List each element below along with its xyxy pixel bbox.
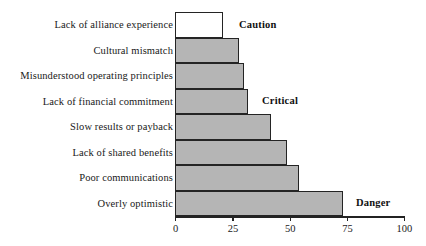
- x-tick-mark-0: [175, 216, 176, 221]
- category-label-4: Slow results or payback: [70, 122, 173, 133]
- bar-4: [175, 114, 271, 140]
- annotation-danger: Danger: [356, 197, 390, 208]
- x-tick-label-50: 50: [270, 223, 310, 234]
- category-label-3: Lack of financial commitment: [43, 97, 173, 108]
- category-label-0: Lack of alliance experience: [55, 20, 173, 31]
- x-tick-label-100: 100: [384, 223, 424, 234]
- category-label-2: Misunderstood operating principles: [20, 71, 173, 82]
- category-label-5: Lack of shared benefits: [72, 148, 173, 159]
- category-label-6: Poor communications: [79, 173, 173, 184]
- x-tick-mark-25: [232, 216, 233, 221]
- category-label-7: Overly optimistic: [98, 199, 173, 210]
- bar-7: [175, 191, 343, 217]
- x-tick-label-75: 75: [327, 223, 367, 234]
- bar-1: [175, 38, 239, 64]
- plot-area: [175, 12, 404, 216]
- x-tick-mark-50: [290, 216, 291, 221]
- bar-6: [175, 165, 299, 191]
- bar-5: [175, 140, 287, 166]
- bar-2: [175, 63, 244, 89]
- x-tick-label-25: 25: [213, 223, 253, 234]
- x-tick-label-0: 0: [156, 223, 196, 234]
- bar-0: [175, 12, 223, 38]
- x-tick-mark-100: [404, 216, 405, 221]
- annotation-critical: Critical: [262, 95, 298, 106]
- category-label-1: Cultural mismatch: [93, 46, 173, 57]
- bar-3: [175, 89, 248, 115]
- horizontal-bar-chart: Lack of alliance experience Cultural mis…: [0, 0, 426, 246]
- x-tick-mark-75: [347, 216, 348, 221]
- annotation-caution: Caution: [239, 19, 277, 30]
